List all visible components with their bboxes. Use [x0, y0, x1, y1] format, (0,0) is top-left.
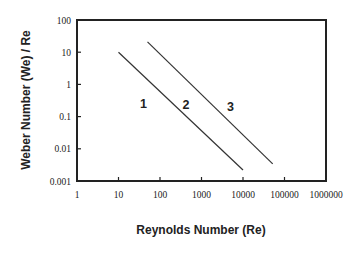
plot-frame [77, 20, 326, 181]
y-tick-label: 1 [66, 80, 71, 90]
y-tick-label: 0.01 [54, 144, 71, 154]
region-label: 1 [140, 97, 147, 111]
series-line [148, 42, 273, 164]
x-tick-label: 1 [75, 190, 80, 200]
region-label: 2 [182, 98, 189, 112]
y-axis-title: Weber Number (We) / Re [19, 30, 33, 170]
chart: 0.0010.010.1110100 110100100010000100000… [0, 0, 361, 254]
x-tick-label: 100000 [270, 190, 299, 200]
x-tick-label: 1000000 [309, 190, 343, 200]
region-labels: 123 [140, 97, 234, 114]
y-tick-label: 0.1 [59, 112, 71, 122]
x-tick-label: 100 [153, 190, 168, 200]
y-tick-label: 10 [62, 48, 72, 58]
series-line [119, 52, 244, 170]
x-axis-title: Reynolds Number (Re) [136, 223, 265, 237]
x-tick-label: 10 [114, 190, 124, 200]
y-tick-label: 0.001 [50, 177, 72, 187]
region-label: 3 [227, 100, 234, 114]
x-tick-label: 10000 [231, 190, 255, 200]
x-tick-label: 1000 [192, 190, 211, 200]
y-tick-label: 100 [57, 16, 72, 26]
